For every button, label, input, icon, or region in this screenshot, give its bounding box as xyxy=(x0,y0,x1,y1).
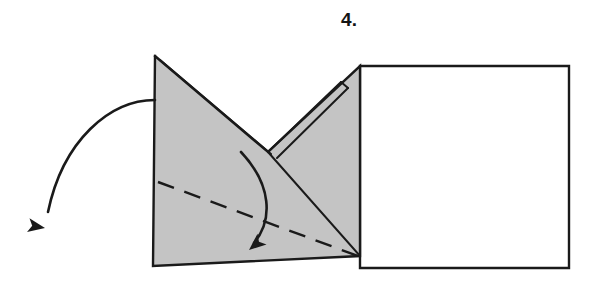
right-white-panel xyxy=(360,66,569,268)
origami-diagram-svg: 4. xyxy=(0,0,598,287)
origami-step-figure: 4. xyxy=(0,0,598,287)
step-number-label: 4. xyxy=(341,9,357,30)
